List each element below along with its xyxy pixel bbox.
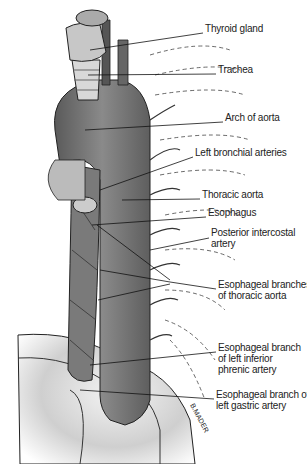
- label-line-1: Esophageal branch of: [216, 389, 307, 400]
- label-esophagus: Esophagus: [208, 207, 256, 218]
- intercostal-arteries: [150, 105, 180, 340]
- label-arch-of-aorta: Arch of aorta: [225, 112, 280, 123]
- label-line-1: Esophageal branches: [218, 279, 307, 290]
- label-thyroid-gland: Thyroid gland: [205, 23, 263, 34]
- label-esophageal-branches-thoracic-aorta: Esophageal branches of thoracic aorta: [218, 279, 307, 301]
- label-line-3: phrenic artery: [218, 364, 301, 375]
- label-posterior-intercostal-artery: Posterior intercostal artery: [211, 227, 295, 249]
- label-line-2: left gastric artery: [216, 400, 307, 411]
- label-line-2: artery: [211, 238, 295, 249]
- label-esophageal-branch-phrenic: Esophageal branch of left inferior phren…: [218, 342, 301, 375]
- label-trachea: Trachea: [218, 64, 253, 75]
- label-line-2: of thoracic aorta: [218, 290, 307, 301]
- label-line-1: Esophageal branch: [218, 342, 301, 353]
- artist-signature: B.MADER: [189, 402, 210, 433]
- thyroid-gland: [66, 10, 108, 61]
- label-line-1: Posterior intercostal: [211, 227, 295, 238]
- label-line-2: of left inferior: [218, 353, 301, 364]
- label-left-bronchial-arteries: Left bronchial arteries: [195, 147, 287, 158]
- label-thoracic-aorta: Thoracic aorta: [202, 189, 263, 200]
- label-esophageal-branch-gastric: Esophageal branch of left gastric artery: [216, 389, 307, 411]
